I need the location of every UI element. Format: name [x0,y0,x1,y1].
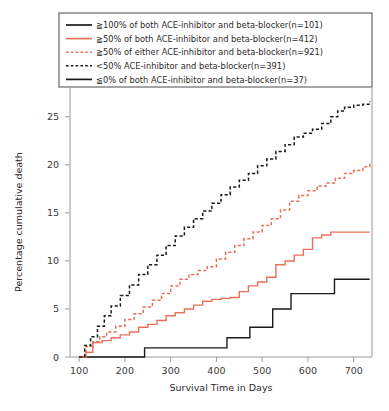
x-tick-label: 700 [345,365,363,376]
legend-label-4: ≦0% of both ACE-inhibitor and beta-block… [96,75,307,85]
y-tick-label: 0 [53,352,59,363]
legend-items: ≧100% of both ACE-inhibitor and beta-blo… [66,20,323,84]
x-tick-label: 400 [207,365,225,376]
y-tick-label: 15 [47,207,59,218]
y-tick-label: 10 [47,255,59,266]
legend: ≧100% of both ACE-inhibitor and beta-blo… [59,13,372,87]
y-tick-label: 20 [47,159,59,170]
legend-label-2: ≧50% of either ACE-inhibitor and beta-bl… [96,47,323,57]
chart-figure: 100200300400500600700 0510152025 Surviva… [0,0,389,411]
y-tick-label: 25 [47,111,59,122]
y-tick-label: 5 [53,303,59,314]
survival-curve-chart: 100200300400500600700 0510152025 Surviva… [0,0,389,411]
y-axis-title: Percentage cumulative death [13,152,24,292]
legend-label-3: <50% ACE-inhibitor and beta-blocker(n=39… [96,61,285,71]
x-tick-label: 500 [253,365,271,376]
legend-label-0: ≧100% of both ACE-inhibitor and beta-blo… [96,20,323,30]
legend-label-1: ≧50% of both ACE-inhibitor and beta-bloc… [96,34,318,44]
x-tick-label: 300 [162,365,180,376]
x-axis-title: Survival Time in Days [170,382,273,393]
x-tick-label: 200 [116,365,134,376]
x-tick-label: 600 [299,365,317,376]
x-tick-label: 100 [70,365,88,376]
